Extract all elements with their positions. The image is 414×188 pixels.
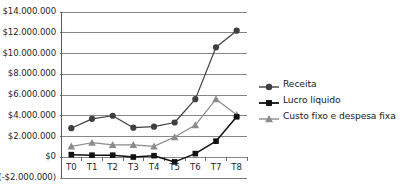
data-point-square <box>69 152 75 158</box>
data-point-square <box>110 152 116 158</box>
data-point-square <box>131 154 137 160</box>
y-axis-tick-label: $6.000.000 <box>8 90 56 99</box>
chart-container: $14.000.000$12.000.000$10.000.000$8.000.… <box>0 0 414 188</box>
x-axis-tick-label: T2 <box>107 162 118 173</box>
legend-label: Lucro líquido <box>283 94 340 105</box>
data-point-circle <box>110 113 116 119</box>
series-line <box>71 99 236 146</box>
data-point-triangle <box>88 139 96 146</box>
x-axis-labels: T0T1T2T3T4T5T6T7T8 <box>60 162 248 178</box>
legend-marker-square-icon <box>258 94 280 106</box>
y-axis-tick-label: $2.000.000 <box>8 132 56 141</box>
data-point-circle <box>266 83 273 90</box>
legend-item[interactable]: Lucro líquido <box>258 92 414 107</box>
data-point-circle <box>192 96 198 102</box>
legend-item[interactable]: Custo fixo e despesa fixa <box>258 108 414 123</box>
legend-item[interactable]: Receita <box>258 76 414 91</box>
x-axis-tick-label: T0 <box>66 162 77 173</box>
data-point-triangle <box>212 95 220 102</box>
data-point-square <box>151 153 157 159</box>
data-point-circle <box>68 125 74 131</box>
x-axis-tick-label: T1 <box>87 162 98 173</box>
data-point-circle <box>172 119 178 125</box>
series-line <box>71 31 236 129</box>
data-point-circle <box>234 28 240 34</box>
x-axis-tick-label: T7 <box>211 162 222 173</box>
data-point-square <box>193 151 199 157</box>
chart-legend: ReceitaLucro líquidoCusto fixo e despesa… <box>258 76 414 124</box>
legend-marker-circle-icon <box>258 78 280 90</box>
x-axis-tick-label: T4 <box>149 162 160 173</box>
data-point-square <box>89 152 95 158</box>
y-axis-tick-label: $10.000.000 <box>2 49 56 58</box>
legend-marker-triangle-icon <box>258 110 280 122</box>
y-axis-tick-label: $4.000.000 <box>8 111 56 120</box>
legend-label: Receita <box>283 78 316 89</box>
data-point-square <box>213 138 219 144</box>
legend-label: Custo fixo e despesa fixa <box>283 110 396 121</box>
y-axis-labels: $14.000.000$12.000.000$10.000.000$8.000.… <box>0 0 56 188</box>
y-axis-tick-label: $14.000.000 <box>2 7 56 16</box>
y-axis-tick-label: (-$2.000.000) <box>0 173 56 182</box>
data-point-circle <box>213 44 219 50</box>
x-axis-tick-label: T6 <box>190 162 201 173</box>
data-point-square <box>266 100 272 106</box>
y-axis-tick-label: $12.000.000 <box>2 28 56 37</box>
plot-area <box>60 8 248 180</box>
data-point-circle <box>130 125 136 131</box>
data-point-circle <box>151 124 157 130</box>
data-point-circle <box>89 116 95 122</box>
data-point-square <box>234 114 240 120</box>
x-axis-tick-label: T8 <box>231 162 242 173</box>
y-axis-tick-label: $0 <box>45 152 56 161</box>
y-axis-tick-label: $8.000.000 <box>8 69 56 78</box>
x-axis-tick-label: T3 <box>128 162 139 173</box>
line-chart-svg <box>60 8 248 180</box>
x-axis-tick-label: T5 <box>169 162 180 173</box>
